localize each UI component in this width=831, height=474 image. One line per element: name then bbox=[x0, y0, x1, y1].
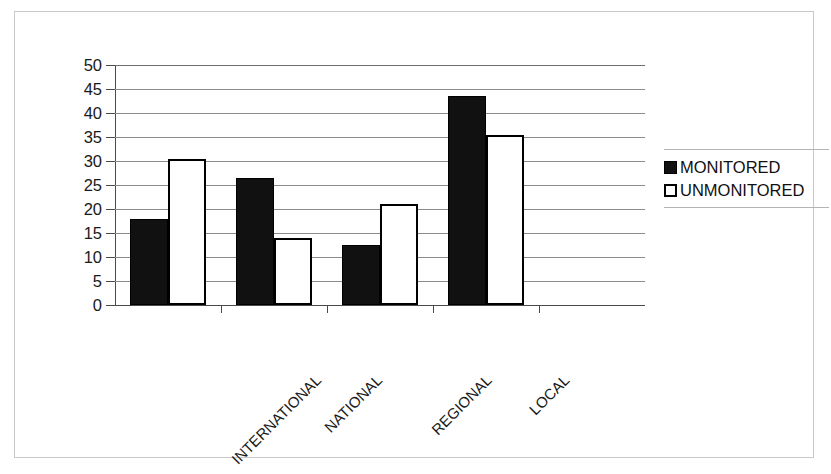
legend-item-label: MONITORED bbox=[680, 159, 781, 176]
y-axis-tick bbox=[106, 161, 115, 162]
legend-item-unmonitored: UNMONITORED bbox=[664, 179, 829, 202]
y-axis-tick bbox=[106, 281, 115, 282]
legend-bottom-rule bbox=[664, 207, 829, 208]
bar-unmonitored-national bbox=[274, 238, 312, 305]
chart-legend: MONITOREDUNMONITORED bbox=[664, 149, 829, 208]
y-axis-tick-label: 10 bbox=[84, 249, 102, 266]
category-separator bbox=[221, 305, 222, 313]
y-axis-tick bbox=[106, 233, 115, 234]
y-axis-tick bbox=[106, 65, 115, 66]
x-axis-label-local: LOCAL bbox=[526, 372, 571, 417]
y-axis-tick-label: 50 bbox=[84, 57, 102, 74]
legend-item-monitored: MONITORED bbox=[664, 156, 829, 179]
y-axis-tick-label: 30 bbox=[84, 153, 102, 170]
y-axis-tick-label: 45 bbox=[84, 81, 102, 98]
category-separator bbox=[327, 305, 328, 313]
y-axis-tick-label: 20 bbox=[84, 201, 102, 218]
x-axis-label-national: NATIONAL bbox=[322, 372, 385, 435]
gridline bbox=[115, 137, 645, 138]
bar-unmonitored-local bbox=[486, 135, 524, 305]
legend-item-label: UNMONITORED bbox=[680, 182, 804, 199]
bar-monitored-national bbox=[236, 178, 274, 305]
y-axis-tick-label: 5 bbox=[93, 273, 102, 290]
y-axis-tick bbox=[106, 185, 115, 186]
category-separator bbox=[539, 305, 540, 313]
bar-monitored-international bbox=[130, 219, 168, 305]
x-axis-label-regional: REGIONAL bbox=[429, 372, 494, 437]
gridline bbox=[115, 113, 645, 114]
y-axis-tick bbox=[106, 89, 115, 90]
gridline bbox=[115, 89, 645, 90]
y-axis-tick-label: 25 bbox=[84, 177, 102, 194]
x-axis-label-international: INTERNATIONAL bbox=[229, 372, 324, 467]
y-axis-tick-label: 15 bbox=[84, 225, 102, 242]
y-axis-tick bbox=[106, 113, 115, 114]
y-axis-tick bbox=[106, 137, 115, 138]
category-separator bbox=[433, 305, 434, 313]
y-axis-tick-label: 40 bbox=[84, 105, 102, 122]
bar-monitored-local bbox=[448, 96, 486, 305]
y-axis-tick-label: 35 bbox=[84, 129, 102, 146]
bar-monitored-regional bbox=[342, 245, 380, 305]
chart-frame: 05101520253035404550 INTERNATIONALNATION… bbox=[14, 11, 814, 458]
bar-unmonitored-international bbox=[168, 159, 206, 305]
y-axis-tick bbox=[106, 257, 115, 258]
plot-area: 05101520253035404550 INTERNATIONALNATION… bbox=[115, 65, 645, 305]
bar-unmonitored-regional bbox=[380, 204, 418, 305]
y-axis-tick-label: 0 bbox=[93, 297, 102, 314]
gridline bbox=[115, 305, 645, 306]
y-axis-tick bbox=[106, 209, 115, 210]
open-white-square-icon bbox=[664, 184, 677, 197]
legend-items: MONITOREDUNMONITORED bbox=[664, 150, 829, 207]
y-axis-tick bbox=[106, 305, 115, 306]
gridline bbox=[115, 65, 645, 66]
filled-black-square-icon bbox=[664, 161, 677, 174]
